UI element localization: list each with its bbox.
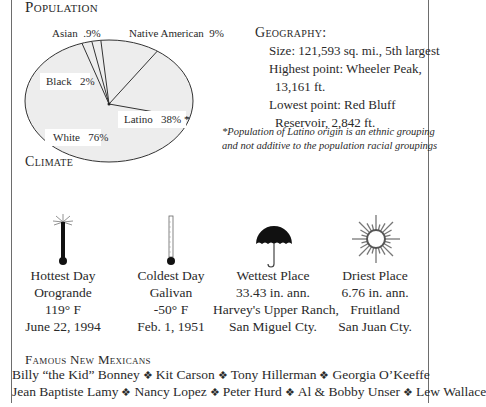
separator-icon: ❖ <box>207 386 223 398</box>
separator-icon: ❖ <box>316 369 332 381</box>
driest-amount: 6.76 in. ann. <box>330 284 420 301</box>
hottest-location: Orogrande <box>13 284 113 301</box>
coldest-temperature: -50° F <box>121 301 221 318</box>
umbrella-icon <box>254 222 294 268</box>
hottest-temperature: 119° F <box>13 301 113 318</box>
separator-icon: ❖ <box>140 369 156 381</box>
climate-hottest: Hottest Day Orogrande 119° F June 22, 19… <box>13 267 113 335</box>
footnote-line-1: *Population of Latino origin is an ethni… <box>222 125 417 139</box>
wettest-title: Wettest Place <box>213 267 333 284</box>
wettest-amount: 33.43 in. ann. <box>213 284 333 301</box>
driest-location: Fruitland <box>330 301 420 318</box>
coldest-location: Galivan <box>121 284 221 301</box>
coldest-title: Coldest Day <box>121 267 221 284</box>
climate-coldest: Coldest Day Galivan -50° F Feb. 1, 1951 <box>121 267 221 335</box>
famous-name: Lew Wallace <box>416 384 486 399</box>
sun-ray <box>359 222 370 233</box>
famous-name: Jean Baptiste Lamy <box>12 384 118 399</box>
separator-icon: ❖ <box>118 386 134 398</box>
famous-names-row-2: Jean Baptiste Lamy❖Nancy Lopez❖Peter Hur… <box>12 384 428 400</box>
famous-names-row-1: Billy “the Kid” Bonney❖Kit Carson❖Tony H… <box>12 367 428 383</box>
famous-name: Al & Bobby Unser <box>298 384 400 399</box>
separator-icon: ❖ <box>215 369 231 381</box>
climate-driest: Driest Place 6.76 in. ann. Fruitland San… <box>330 267 420 335</box>
geography-size: Size: 121,593 sq. mi., 5th largest <box>255 42 440 60</box>
climate-title: Climate <box>25 154 73 170</box>
population-pie-chart: Asian .9% Native American 9% Black 2% La… <box>0 0 230 175</box>
geography-title: Geography: <box>255 24 440 42</box>
famous-name: Nancy Lopez <box>134 384 206 399</box>
sun-icon <box>350 212 402 266</box>
pie-label-asian: Asian .9% <box>52 27 101 39</box>
pie-center-dot <box>108 103 111 106</box>
latino-footnote: *Population of Latino origin is an ethni… <box>222 125 417 153</box>
separator-icon: ❖ <box>400 386 416 398</box>
famous-name: Peter Hurd <box>223 384 282 399</box>
pie-label-white: White 76% <box>53 131 108 143</box>
hot-thermometer-icon <box>50 212 76 268</box>
sun-ray <box>359 245 370 256</box>
geography-block: Geography: Size: 121,593 sq. mi., 5th la… <box>255 24 440 132</box>
sun-ray <box>382 222 393 233</box>
coldest-date: Feb. 1, 1951 <box>121 318 221 335</box>
cold-thermometer-icon <box>164 214 178 268</box>
hottest-date: June 22, 1994 <box>13 318 113 335</box>
famous-new-mexicans-title: Famous New Mexicans <box>25 352 151 368</box>
pie-label-native-american: Native American 9% <box>129 27 224 39</box>
famous-name: Billy “the Kid” Bonney <box>12 367 140 382</box>
pie-label-latino: Latino 38% * <box>124 113 189 125</box>
driest-county: San Juan Cty. <box>330 318 420 335</box>
famous-name: Kit Carson <box>156 367 215 382</box>
sun-ray <box>382 245 393 256</box>
wettest-location: Harvey's Upper Ranch, <box>213 301 333 318</box>
famous-name: Tony Hillerman <box>231 367 317 382</box>
driest-title: Driest Place <box>330 267 420 284</box>
hottest-title: Hottest Day <box>13 267 113 284</box>
climate-wettest: Wettest Place 33.43 in. ann. Harvey's Up… <box>213 267 333 335</box>
footnote-line-2: and not additive to the population racia… <box>222 139 417 153</box>
famous-name: Georgia O’Keeffe <box>332 367 429 382</box>
geography-highest-point: Highest point: Wheeler Peak, <box>255 60 440 78</box>
pie-label-black: Black 2% <box>46 75 95 87</box>
geography-highest-elevation: 13,161 ft. <box>255 78 440 96</box>
wettest-county: San Miguel Cty. <box>213 318 333 335</box>
geography-lowest-point: Lowest point: Red Bluff <box>255 96 440 114</box>
separator-icon: ❖ <box>282 386 298 398</box>
